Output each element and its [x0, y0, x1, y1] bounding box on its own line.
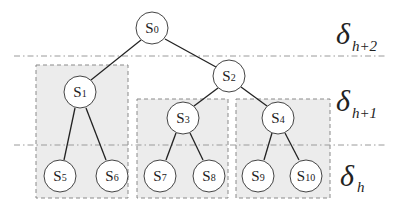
node-s8: S8: [193, 160, 225, 192]
node-s5: S5: [44, 160, 76, 192]
edge-s0-s2: [165, 39, 216, 67]
node-s4: S4: [262, 102, 294, 134]
node-s1: S1: [64, 76, 96, 108]
svg-text:δ: δ: [336, 17, 351, 50]
node-s9: S9: [242, 160, 274, 192]
svg-text:δ: δ: [340, 159, 355, 192]
svg-text:h: h: [357, 179, 365, 195]
node-s0: S0: [136, 12, 168, 44]
node-s6: S6: [96, 160, 128, 192]
node-s3: S3: [167, 102, 199, 134]
level-label-h1: δ h+1: [336, 84, 377, 121]
svg-text:δ: δ: [336, 84, 351, 117]
tree-diagram: S0S1S2S3S4S5S6S7S8S9S10 δ h+2 δ h+1 δ h: [0, 0, 395, 208]
level-label-h: δ h: [340, 159, 365, 195]
node-s2: S2: [213, 60, 245, 92]
svg-text:h+2: h+2: [352, 38, 378, 54]
node-s10: S10: [290, 160, 322, 192]
node-s7: S7: [144, 160, 176, 192]
level-label-h2: δ h+2: [336, 17, 378, 54]
svg-text:h+1: h+1: [352, 105, 377, 121]
